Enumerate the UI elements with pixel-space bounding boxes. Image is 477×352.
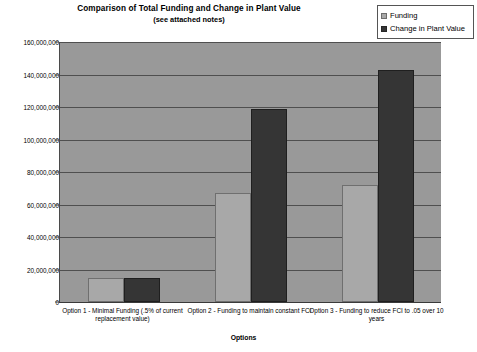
- y-axis-tick-label: 40,000,000: [5, 234, 59, 241]
- y-axis: Investment $ 160,000,000140,000,000120,0…: [0, 0, 59, 352]
- x-axis-category-label: Option 2 - Funding to maintain constant …: [180, 307, 319, 315]
- y-axis-tick-label: 140,000,000: [5, 71, 59, 78]
- y-axis-tick-label: 20,000,000: [5, 266, 59, 273]
- legend-label-change-in-plant-value: Change in Plant Value: [390, 24, 465, 33]
- bar-chart: Comparison of Total Funding and Change i…: [0, 0, 477, 352]
- bar-change-in-plant-value-option-1: [124, 278, 160, 302]
- x-axis-title-text: Options: [231, 334, 257, 341]
- bar-funding-option-2: [215, 193, 251, 302]
- chart-legend: Funding Change in Plant Value: [377, 5, 474, 39]
- y-axis-tick-label: 100,000,000: [5, 136, 59, 143]
- x-axis-category-label: Option 3 - Funding to reduce FCI to .05 …: [307, 307, 446, 323]
- legend-label-funding: Funding: [390, 11, 417, 20]
- x-axis-category-label: Option 1 - Minimal Funding (.5% of curre…: [53, 307, 192, 323]
- chart-subtitle: (see attached notes): [48, 14, 330, 25]
- y-axis-tick-label: 60,000,000: [5, 201, 59, 208]
- plot-area: [59, 42, 441, 302]
- chart-title-block: Comparison of Total Funding and Change i…: [48, 3, 330, 25]
- chart-title: Comparison of Total Funding and Change i…: [48, 3, 330, 14]
- bars-layer: [60, 42, 441, 302]
- bar-change-in-plant-value-option-3: [378, 70, 414, 302]
- x-axis-title: Options: [0, 334, 477, 341]
- legend-swatch-icon-funding: [381, 13, 387, 19]
- legend-item-funding: Funding: [381, 9, 471, 22]
- bar-funding-option-1: [88, 278, 124, 302]
- legend-swatch-icon-change-in-plant-value: [381, 26, 387, 32]
- y-axis-tick-label: 160,000,000: [5, 39, 59, 46]
- y-axis-tick-label: 80,000,000: [5, 169, 59, 176]
- y-axis-tick-label: 0: [5, 299, 59, 306]
- bar-funding-option-3: [342, 185, 378, 302]
- x-axis-line: [59, 302, 441, 303]
- y-axis-tick-label: 120,000,000: [5, 104, 59, 111]
- legend-item-change-in-plant-value: Change in Plant Value: [381, 22, 471, 35]
- bar-change-in-plant-value-option-2: [251, 109, 287, 302]
